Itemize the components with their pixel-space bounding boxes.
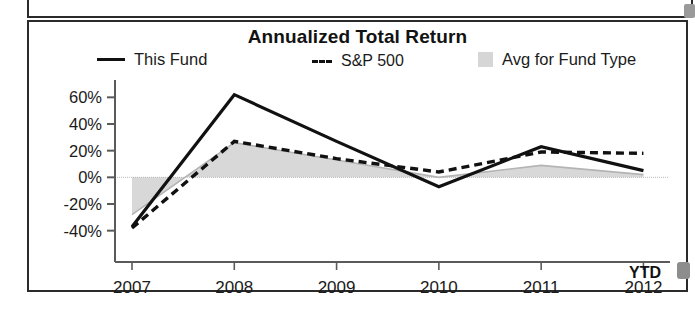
- y-axis-tick-label: -20%: [63, 195, 102, 213]
- series-line-sp500: [132, 141, 643, 228]
- y-axis-tick-label: 20%: [69, 142, 102, 160]
- scan-artifact-right: [677, 262, 690, 279]
- plot-area: 60%40%20%0%-20%-40%200720082009201020112…: [29, 22, 690, 294]
- scan-artifact-top: [684, 4, 695, 18]
- x-axis-tick-label: 2008: [215, 278, 253, 294]
- chart-page: Annualized Total Return This Fund S&P 50…: [0, 0, 695, 311]
- y-axis-tick-label: 0%: [78, 168, 102, 186]
- x-axis-tick-label: 2010: [420, 278, 458, 294]
- x-axis-tick-label: 2007: [113, 278, 151, 294]
- y-axis-tick-label: -40%: [63, 222, 102, 240]
- scan-edge-mark: [2, 2, 10, 12]
- y-axis-tick-label: 60%: [69, 88, 102, 106]
- adjacent-panel-fragment: [27, 0, 693, 18]
- x-axis-tick-label: 2009: [318, 278, 356, 294]
- chart-svg: 60%40%20%0%-20%-40%200720082009201020112…: [29, 22, 690, 294]
- x-axis-tick-label: 2011: [523, 278, 560, 294]
- y-axis-tick-label: 40%: [69, 115, 102, 133]
- x-axis-ytd-label: YTD: [629, 264, 661, 282]
- annualized-total-return-panel: Annualized Total Return This Fund S&P 50…: [27, 20, 688, 292]
